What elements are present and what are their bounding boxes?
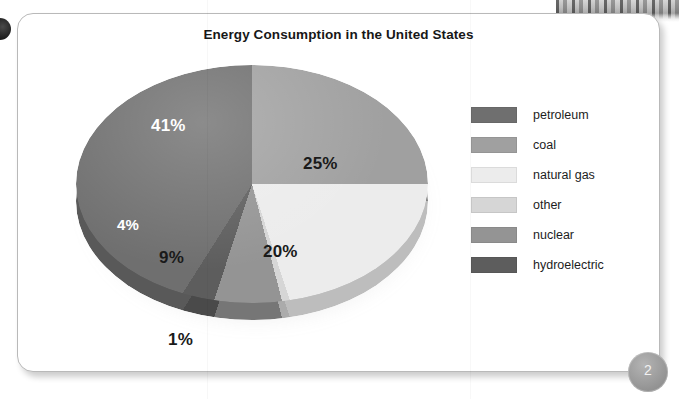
- page-number-label: 2: [628, 352, 668, 392]
- legend-item-label: hydroelectric: [533, 258, 604, 272]
- pie-label-natural-gas: 20%: [263, 242, 298, 262]
- legend-item-label: nuclear: [533, 228, 574, 242]
- pie-label-coal: 25%: [303, 154, 338, 174]
- legend-item-label: other: [533, 198, 562, 212]
- legend-swatch-icon: [471, 107, 517, 123]
- pie-label-hydroelectric: 4%: [117, 216, 139, 233]
- legend-item-label: petroleum: [533, 108, 589, 122]
- legend-swatch-icon: [471, 257, 517, 273]
- legend-item: hydroelectric: [471, 250, 641, 280]
- chart-title: Energy Consumption in the United States: [18, 27, 659, 42]
- scanned-page-background: Energy Consumption in the United States …: [0, 0, 679, 399]
- legend-item: natural gas: [471, 160, 641, 190]
- pie-top-face: [76, 65, 428, 303]
- legend-item: coal: [471, 130, 641, 160]
- slide-card: Energy Consumption in the United States …: [17, 13, 660, 372]
- binder-hole-dot: [0, 18, 11, 40]
- pie-slices: [76, 65, 428, 303]
- legend-swatch-icon: [471, 167, 517, 183]
- legend-item-label: natural gas: [533, 168, 595, 182]
- legend-item: nuclear: [471, 220, 641, 250]
- legend-swatch-icon: [471, 137, 517, 153]
- legend-swatch-icon: [471, 197, 517, 213]
- pie-label-other: 1%: [168, 330, 193, 350]
- pie-label-petroleum: 41%: [151, 116, 186, 136]
- pie-label-nuclear: 9%: [159, 248, 184, 268]
- pie-chart: 41% 25% 20% 9% 4% 1%: [58, 52, 463, 352]
- page-number-badge: 2: [628, 352, 668, 392]
- legend-swatch-icon: [471, 227, 517, 243]
- chart-legend: petroleum coal natural gas other nuclear…: [471, 100, 641, 280]
- legend-item-label: coal: [533, 138, 556, 152]
- legend-item: petroleum: [471, 100, 641, 130]
- legend-item: other: [471, 190, 641, 220]
